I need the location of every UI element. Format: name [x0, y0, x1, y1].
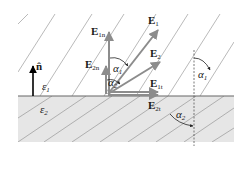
E2-label: E2: [150, 47, 161, 61]
alpha1-origin-label: α1: [113, 62, 122, 76]
diagram: n̂ ε1 ε2 E1n E1 E2 E2n E1t E2t α1 α2 α1 …: [0, 0, 246, 172]
E1t-label: E1t: [150, 77, 163, 91]
alpha2-origin-label: α2: [108, 76, 118, 90]
lower-medium-region: [18, 96, 234, 142]
alpha1-right-label: α1: [198, 68, 207, 82]
E1-label: E1: [148, 14, 159, 28]
E2n-label: E2n: [85, 58, 100, 72]
normal-label: n̂: [36, 60, 42, 72]
E1n-label: E1n: [91, 25, 106, 39]
